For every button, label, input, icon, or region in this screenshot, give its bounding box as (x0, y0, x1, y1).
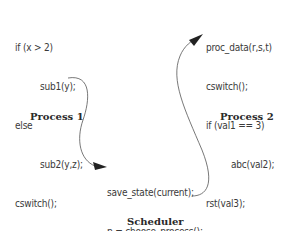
arrowhead-icon (189, 34, 203, 46)
arrows-layer (0, 0, 292, 231)
arrow-scheduler-to-process2 (177, 38, 209, 196)
arrow-process1-to-scheduler (68, 78, 95, 166)
arrowhead-icon (93, 162, 107, 170)
